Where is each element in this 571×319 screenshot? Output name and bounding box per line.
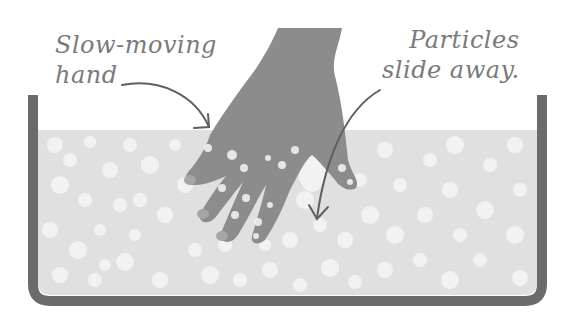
label-slow-moving-hand: Slow-moving hand: [55, 30, 217, 90]
label-hand-line1: Slow-moving: [55, 30, 217, 60]
label-hand-line2: hand: [55, 60, 217, 90]
label-particles-line2: slide away.: [382, 55, 520, 85]
label-particles-slide-away: Particles slide away.: [382, 25, 520, 85]
label-particles-line1: Particles: [382, 25, 520, 55]
arrow-to-hand-icon: [122, 83, 209, 128]
